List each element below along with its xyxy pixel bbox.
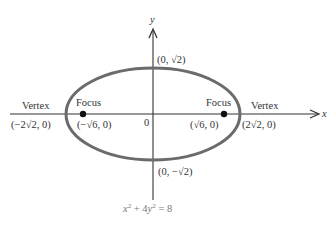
bottom-vertex-coord: (0, −√2) [158,167,192,178]
right-focus-label: Focus [206,98,231,109]
x-axis-label: x [322,109,327,120]
equation-plus: + 4 [131,203,147,214]
diagram-canvas [0,0,332,228]
right-vertex-coord: (2√2, 0) [242,120,276,131]
ellipse-diagram: y x 0 (0, √2) (0, −√2) Vertex (−2√2, 0) … [0,0,332,228]
top-vertex-coord: (0, √2) [157,55,186,66]
left-focus-coord: (−√6, 0) [77,120,111,131]
ellipse-equation: x2 + 4y2 = 8 [123,203,172,215]
right-focus-dot [221,111,227,117]
left-focus-dot [80,111,86,117]
left-focus-label: Focus [76,98,101,109]
right-focus-coord: (√6, 0) [190,120,219,131]
left-vertex-coord: (−2√2, 0) [11,120,51,131]
right-vertex-label: Vertex [251,101,278,112]
equation-rhs: = 8 [156,203,172,214]
origin-label: 0 [144,118,149,129]
left-vertex-label: Vertex [22,101,49,112]
y-axis-label: y [150,15,155,26]
